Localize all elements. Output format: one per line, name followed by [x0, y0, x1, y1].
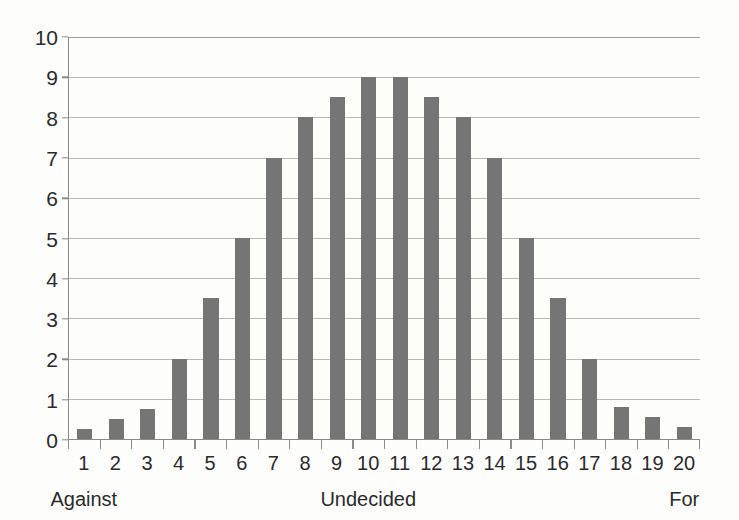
bar	[424, 97, 439, 439]
y-tick-label: 5	[46, 228, 58, 249]
bar-series	[69, 37, 700, 439]
scale-anchor-captions: AgainstUndecidedFor	[68, 484, 700, 514]
x-tick-mark	[605, 440, 637, 449]
bar	[519, 238, 534, 439]
bar	[550, 298, 565, 439]
bar-slot	[448, 37, 480, 439]
bar-slot	[132, 37, 164, 439]
bar-slot	[511, 37, 543, 439]
x-tick-mark	[352, 440, 384, 449]
x-tick-mark	[321, 440, 353, 449]
x-tick-mark	[668, 440, 700, 449]
bar-slot	[101, 37, 133, 439]
x-tick-label: 13	[447, 449, 479, 477]
x-tick-mark	[447, 440, 479, 449]
bar	[645, 417, 660, 439]
bar	[109, 419, 124, 439]
x-tick-label: 4	[163, 449, 195, 477]
x-tick-mark	[542, 440, 574, 449]
x-tick-label: 6	[226, 449, 258, 477]
x-tick-mark	[289, 440, 321, 449]
y-axis: 012345678910	[0, 37, 58, 440]
bar-slot	[69, 37, 101, 439]
bar-slot	[384, 37, 416, 439]
plot-area	[68, 37, 700, 440]
x-tick-mark	[384, 440, 416, 449]
x-tick-label: 20	[668, 449, 700, 477]
x-tick-label: 11	[384, 449, 416, 477]
bar-slot	[668, 37, 700, 439]
y-tick-label: 8	[46, 107, 58, 128]
bar-slot	[195, 37, 227, 439]
x-tick-label: 17	[574, 449, 606, 477]
bar-slot	[605, 37, 637, 439]
x-tick-label: 5	[194, 449, 226, 477]
bar-slot	[637, 37, 669, 439]
x-tick-label: 18	[605, 449, 637, 477]
y-tick-label: 3	[46, 309, 58, 330]
anchor-caption: Undecided	[320, 484, 416, 514]
x-tick-label: 14	[479, 449, 511, 477]
x-tick-mark	[416, 440, 448, 449]
bar-slot	[479, 37, 511, 439]
x-tick-mark	[574, 440, 606, 449]
anchor-caption: Against	[50, 484, 117, 514]
bar-slot	[353, 37, 385, 439]
bar	[140, 409, 155, 439]
bar	[172, 359, 187, 439]
bar-slot	[164, 37, 196, 439]
bar	[393, 77, 408, 439]
x-tick-mark	[637, 440, 669, 449]
x-tick-label: 8	[289, 449, 321, 477]
y-tick-label: 0	[46, 430, 58, 451]
bar-slot	[290, 37, 322, 439]
x-tick-label: 19	[637, 449, 669, 477]
bar	[298, 117, 313, 439]
x-tick-mark	[194, 440, 226, 449]
x-tick-mark	[100, 440, 132, 449]
x-tick-label: 7	[258, 449, 290, 477]
x-tick-label: 2	[100, 449, 132, 477]
bar	[330, 97, 345, 439]
x-tick-mark	[479, 440, 511, 449]
x-tick-label: 1	[68, 449, 100, 477]
x-tick-mark	[163, 440, 195, 449]
x-tick-mark	[258, 440, 290, 449]
bar-slot	[258, 37, 290, 439]
x-tick-label: 9	[321, 449, 353, 477]
y-tick-label: 10	[35, 27, 58, 48]
bar-slot	[321, 37, 353, 439]
x-axis-labels: 1234567891011121314151617181920	[68, 449, 700, 477]
bar	[456, 117, 471, 439]
bar	[614, 407, 629, 439]
anchor-caption: For	[669, 484, 699, 514]
y-tick-label: 4	[46, 268, 58, 289]
bar-slot	[574, 37, 606, 439]
bar	[203, 298, 218, 439]
x-tick-mark	[131, 440, 163, 449]
x-tick-label: 12	[416, 449, 448, 477]
bar	[677, 427, 692, 439]
x-tick-mark	[68, 440, 100, 449]
bar-slot	[227, 37, 259, 439]
x-tick-label: 3	[131, 449, 163, 477]
bar	[266, 158, 281, 439]
bar	[487, 158, 502, 439]
bar	[582, 359, 597, 439]
x-axis-ticks	[68, 440, 700, 449]
bar-slot	[416, 37, 448, 439]
x-tick-label: 10	[352, 449, 384, 477]
x-tick-label: 16	[542, 449, 574, 477]
x-tick-mark	[226, 440, 258, 449]
bar	[235, 238, 250, 439]
y-tick-label: 2	[46, 349, 58, 370]
bar	[361, 77, 376, 439]
y-tick-label: 1	[46, 389, 58, 410]
y-tick-label: 9	[46, 67, 58, 88]
bar-chart: 012345678910 123456789101112131415161718…	[0, 0, 739, 520]
x-tick-label: 15	[510, 449, 542, 477]
x-tick-mark	[510, 440, 542, 449]
y-tick-label: 7	[46, 147, 58, 168]
y-tick-label: 6	[46, 188, 58, 209]
bar-slot	[542, 37, 574, 439]
